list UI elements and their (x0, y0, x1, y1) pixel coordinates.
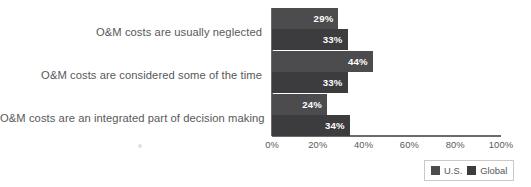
category-label: O&M costs are an integrated part of deci… (0, 112, 262, 125)
bar-value-label: 24% (302, 100, 322, 110)
bar-global-0: 33% (272, 29, 348, 50)
bar-value-label: 29% (314, 14, 334, 24)
bar-value-label: 44% (348, 57, 368, 67)
x-axis-tick-labels: 0%20%40%60%80%100% (272, 139, 501, 153)
category-label: O&M costs are usually neglected (0, 26, 262, 39)
x-tick-label: 60% (400, 139, 419, 150)
legend-label: Global (480, 166, 507, 176)
bar-chart: O&M costs are usually neglected O&M cost… (0, 0, 531, 187)
bar-value-label: 34% (325, 121, 345, 131)
legend-swatch-icon (431, 166, 440, 175)
category-label: O&M costs are considered some of the tim… (0, 69, 262, 82)
bar-us-0: 29% (272, 8, 338, 29)
legend-label: U.S. (444, 166, 462, 176)
bar-us-1: 44% (272, 51, 373, 72)
bar-us-2: 24% (272, 94, 327, 115)
x-tick-label: 80% (446, 139, 465, 150)
x-tick-label: 100% (489, 139, 513, 150)
legend-item-global[interactable]: Global (467, 166, 507, 176)
category-axis-labels: O&M costs are usually neglected O&M cost… (0, 0, 268, 135)
x-tick-label: 0% (265, 139, 279, 150)
bar-global-2: 34% (272, 115, 350, 136)
bar-value-label: 33% (323, 78, 343, 88)
plot-area: 29% 33% 44% 33% 24% 34% (272, 0, 501, 136)
legend-swatch-icon (467, 166, 476, 175)
legend-item-us[interactable]: U.S. (431, 166, 462, 176)
x-tick-label: 40% (354, 139, 373, 150)
chart-legend: U.S. Global (424, 160, 514, 181)
bar-value-label: 33% (323, 35, 343, 45)
page-artifact-speck (138, 144, 142, 148)
x-tick-label: 20% (308, 139, 327, 150)
bar-global-1: 33% (272, 72, 348, 93)
